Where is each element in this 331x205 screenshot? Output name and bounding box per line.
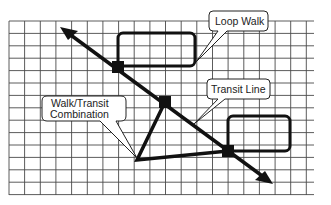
walk-transit-label-line2: Combination <box>50 108 109 120</box>
stop-node-lower <box>222 145 234 157</box>
loop-walk-label: Loop Walk <box>215 15 265 27</box>
stop-node-upper <box>112 61 124 73</box>
transit-line-label: Transit Line <box>211 83 266 95</box>
transit-diagram: Loop Walk Transit Line Walk/Transit Comb… <box>0 0 331 205</box>
stop-node-middle <box>159 96 171 108</box>
